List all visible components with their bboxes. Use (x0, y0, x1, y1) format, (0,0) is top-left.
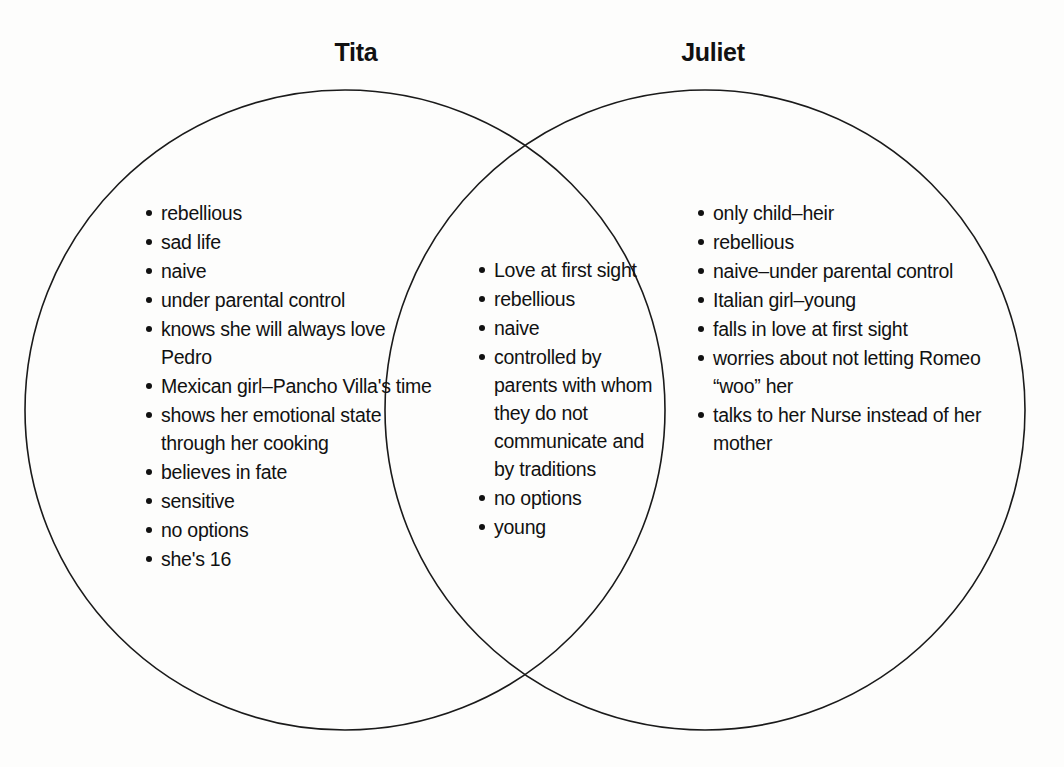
left-circle-list: rebellious sad life naive under parental… (146, 199, 436, 574)
list-item: falls in love at first sight (698, 315, 988, 343)
list-item: rebellious (479, 285, 654, 313)
list-item: only child–heir (698, 199, 988, 227)
list-item: knows she will always love Pedro (146, 315, 436, 371)
list-item: talks to her Nurse instead of her mother (698, 401, 988, 457)
list-item: young (479, 513, 654, 541)
list-item: rebellious (698, 228, 988, 256)
list-item: naive (479, 314, 654, 342)
list-item: worries about not letting Romeo “woo” he… (698, 344, 988, 400)
list-item: naive (146, 257, 436, 285)
list-item: rebellious (146, 199, 436, 227)
list-item: Love at first sight (479, 256, 654, 284)
list-item: naive–under parental control (698, 257, 988, 285)
list-item: Italian girl–young (698, 286, 988, 314)
list-item: believes in fate (146, 458, 436, 486)
list-item: she's 16 (146, 545, 436, 573)
list-item: no options (146, 516, 436, 544)
list-item: no options (479, 484, 654, 512)
list-item: under parental control (146, 286, 436, 314)
list-item: shows her emotional state through her co… (146, 401, 436, 457)
right-circle-title: Juliet (681, 40, 745, 65)
list-item: controlled by parents with whom they do … (479, 343, 654, 483)
list-item: sad life (146, 228, 436, 256)
right-circle-list: only child–heir rebellious naive–under p… (698, 199, 988, 458)
overlap-list: Love at first sight rebellious naive con… (479, 256, 654, 542)
list-item: sensitive (146, 487, 436, 515)
venn-diagram-page: Tita Juliet rebellious sad life naive un… (0, 0, 1064, 767)
list-item: Mexican girl–Pancho Villa's time (146, 372, 436, 400)
left-circle-title: Tita (335, 40, 378, 65)
